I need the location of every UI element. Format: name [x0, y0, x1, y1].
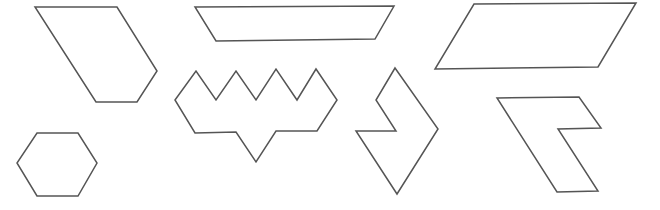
notched-rhombus-shape [356, 68, 438, 194]
hexagon-shape [17, 133, 97, 196]
slanted-pentagon-shape [35, 7, 157, 102]
shapes-canvas [0, 0, 660, 210]
parallelogram-shape [435, 3, 636, 69]
notched-parallelogram-shape [497, 97, 601, 192]
trapezoid-shape [195, 6, 394, 41]
zigzag-crown-shape [175, 69, 337, 162]
